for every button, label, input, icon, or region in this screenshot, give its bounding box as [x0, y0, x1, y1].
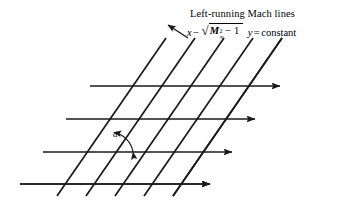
mach-line-4: [144, 38, 253, 196]
mach-line-group: [57, 38, 282, 196]
mach-line-6: [173, 38, 282, 196]
caption-pointer-arrow: [168, 25, 188, 38]
streamline-group: [20, 86, 280, 184]
mach-line-2: [86, 38, 195, 196]
mach-line-1: [57, 38, 166, 196]
caption-pointer: [168, 25, 188, 38]
mach-lines-figure: Left-running Mach lines x − √ M 2 ∞ − 1 …: [0, 0, 338, 201]
mach-line-3: [115, 38, 224, 196]
mach-lines-diagram-canvas: [0, 0, 338, 201]
